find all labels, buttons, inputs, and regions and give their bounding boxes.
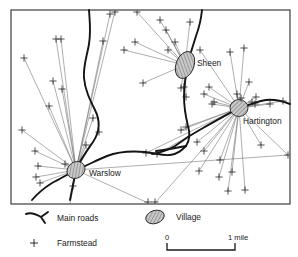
farmstead-marker <box>171 38 178 45</box>
farmstead-marker <box>61 160 68 167</box>
farmstead-marker <box>89 114 96 121</box>
main-roads-icon <box>26 212 48 223</box>
farmstead-markers <box>18 10 289 203</box>
farmstead-marker <box>49 77 56 84</box>
farmstead-marker <box>196 46 203 53</box>
farmstead-marker <box>216 156 223 163</box>
farmstead-icon <box>30 239 38 247</box>
farmstead-marker <box>31 147 38 154</box>
legend-main-roads: Main roads <box>26 212 98 223</box>
village-shape-warslow <box>64 158 89 182</box>
scale-label-right: 1 mile <box>228 233 248 242</box>
farmstead-marker <box>224 187 231 194</box>
farmstead-marker <box>200 147 207 154</box>
legend-village: Village <box>144 208 201 226</box>
farmstead-marker <box>58 85 65 92</box>
farmstead-marker <box>266 100 273 107</box>
farmstead-marker <box>156 16 163 23</box>
farmstead-marker <box>195 167 202 174</box>
farmstead-marker <box>111 10 118 15</box>
farmstead-marker <box>120 46 127 53</box>
legend-farmstead: Farmstead <box>30 238 97 248</box>
farmstead-marker <box>57 35 64 42</box>
village-icon <box>144 208 166 226</box>
farmstead-marker <box>162 26 169 33</box>
farmstead-marker <box>32 173 39 180</box>
scale-bar: 0 1 mile <box>165 233 248 250</box>
scale-label-left: 0 <box>165 233 169 242</box>
farmstead-marker <box>144 198 151 203</box>
road-north-south <box>76 10 99 170</box>
farmstead-marker <box>228 168 235 175</box>
farmstead-marker <box>45 102 52 109</box>
farmstead-marker <box>151 198 158 203</box>
farmstead-marker <box>240 44 247 51</box>
farmstead-marker <box>99 37 106 44</box>
farmstead-marker <box>279 97 286 104</box>
farmstead-marker <box>106 10 113 17</box>
farmstead-marker <box>177 126 184 133</box>
road-hartington-southwest <box>152 108 239 154</box>
village-shape-hartington <box>230 100 248 117</box>
farmstead-marker <box>252 93 259 100</box>
farmstead-marker <box>139 79 146 86</box>
farmstead-marker <box>245 78 252 85</box>
farmstead-marker <box>186 18 193 25</box>
village-label-warslow: Warslow <box>89 168 122 178</box>
legend-label-village: Village <box>176 212 201 222</box>
farmstead-marker <box>18 126 25 133</box>
farmstead-marker <box>193 138 200 145</box>
farmstead-marker <box>200 90 207 97</box>
farmstead-marker <box>69 182 76 189</box>
farmstead-marker <box>34 162 41 169</box>
farmstead-marker <box>20 54 27 61</box>
village-label-hartington: Hartington <box>243 116 282 126</box>
farmstead-marker <box>226 48 233 55</box>
map-canvas: Warslow Sheen Hartington Main roads Farm… <box>0 0 298 257</box>
farmstead-marker <box>257 141 264 148</box>
farmstead-marker <box>208 100 215 107</box>
farmstead-marker <box>142 149 149 156</box>
farmstead-marker <box>36 179 43 186</box>
farmstead-marker <box>215 173 222 180</box>
village-shape-sheen <box>172 49 198 81</box>
village-label-sheen: Sheen <box>197 58 222 68</box>
farmstead-marker <box>131 38 138 45</box>
farmstead-marker <box>241 186 248 193</box>
legend-label-main-roads: Main roads <box>57 213 98 223</box>
farmstead-marker <box>233 90 240 97</box>
legend-label-farmstead: Farmstead <box>57 238 97 248</box>
scale-bar-line <box>167 243 235 250</box>
settlement-map-figure: Warslow Sheen Hartington Main roads Farm… <box>0 0 298 257</box>
farmstead-marker <box>205 83 212 90</box>
